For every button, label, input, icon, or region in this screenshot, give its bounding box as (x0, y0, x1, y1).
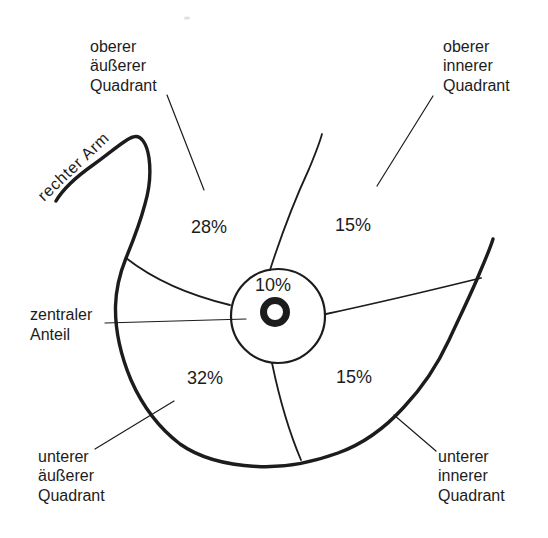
label-central-line2: Anteil (30, 326, 70, 343)
label-lower-inner-quadrant: unterer innerer Quadrant (438, 448, 505, 504)
label-central-portion: zentraler Anteil (30, 306, 97, 343)
figure: oberer äußerer Quadrant oberer innerer Q… (0, 0, 548, 538)
label-upper-inner-quadrant: oberer innerer Quadrant (443, 38, 510, 94)
label-upper-outer-line2: äußerer (90, 57, 147, 74)
leader-lower-inner (394, 415, 436, 451)
label-upper-inner-line2: innerer (443, 57, 493, 74)
label-upper-outer-line1: oberer (90, 38, 137, 55)
label-central-line1: zentraler (30, 306, 93, 323)
leader-central (105, 319, 246, 323)
label-upper-inner-line3: Quadrant (443, 77, 510, 94)
label-upper-outer-line3: Quadrant (90, 77, 157, 94)
label-lower-outer-line1: unterer (38, 448, 89, 465)
label-upper-inner-line1: oberer (443, 38, 490, 55)
quadrant-divider-lower (272, 363, 301, 460)
scan-artifact-dot (184, 16, 190, 19)
nipple-ring (264, 301, 287, 324)
label-lower-inner-line3: Quadrant (438, 487, 505, 504)
value-upper-outer: 28% (191, 217, 227, 237)
label-lower-inner-line2: innerer (438, 467, 488, 484)
value-lower-inner: 15% (336, 367, 372, 387)
leader-upper-outer (167, 95, 204, 190)
label-upper-outer-quadrant: oberer äußerer Quadrant (90, 38, 157, 94)
label-lower-outer-line2: äußerer (38, 467, 95, 484)
value-central: 10% (255, 275, 291, 295)
label-lower-inner-line1: unterer (438, 448, 489, 465)
leader-lower-outer (95, 401, 174, 449)
quadrant-divider-upper (270, 134, 322, 270)
leader-upper-inner (377, 96, 433, 186)
breast-quadrant-diagram: oberer äußerer Quadrant oberer innerer Q… (0, 0, 548, 538)
quadrant-divider-left (126, 258, 230, 305)
label-lower-outer-quadrant: unterer äußerer Quadrant (38, 448, 105, 504)
value-upper-inner: 15% (335, 215, 371, 235)
label-lower-outer-line3: Quadrant (38, 487, 105, 504)
value-lower-outer: 32% (187, 368, 223, 388)
label-right-arm: rechter Arm (34, 129, 112, 204)
quadrant-divider-right (326, 278, 481, 314)
